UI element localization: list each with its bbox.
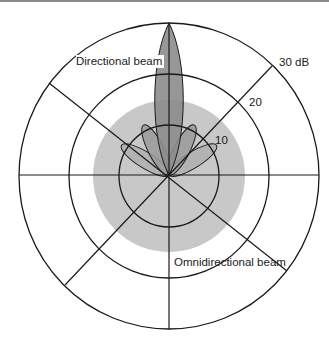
polar-diagram [0, 0, 329, 345]
omnidirectional-beam-label: Omnidirectional beam [174, 256, 286, 269]
ring-label-20db: 20 [249, 96, 262, 109]
ring-label-10db: 10 [215, 134, 228, 147]
ring-label-30db: 30 dB [279, 56, 309, 69]
directional-beam-label: Directional beam [76, 55, 164, 68]
grid-radials [19, 23, 319, 329]
